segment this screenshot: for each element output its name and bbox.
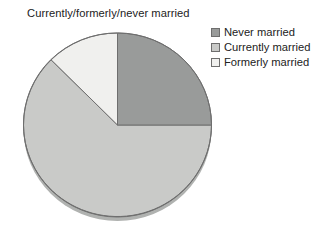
pie-chart-figure: Currently/formerly/never married Never m… bbox=[0, 0, 333, 236]
chart-title: Currently/formerly/never married bbox=[27, 6, 190, 20]
pie-slice-never-married[interactable] bbox=[118, 33, 212, 125]
legend-swatch-icon bbox=[211, 43, 220, 52]
legend-label: Formerly married bbox=[224, 56, 309, 69]
legend-swatch-icon bbox=[211, 28, 220, 37]
pie-graphic bbox=[22, 29, 213, 222]
chart-legend: Never married Currently married Formerly… bbox=[211, 25, 310, 69]
pie-svg bbox=[22, 29, 213, 222]
legend-item-currently-married[interactable]: Currently married bbox=[211, 40, 310, 54]
legend-label: Currently married bbox=[224, 41, 310, 54]
legend-item-formerly-married[interactable]: Formerly married bbox=[211, 55, 310, 69]
legend-swatch-icon bbox=[211, 58, 220, 67]
legend-item-never-married[interactable]: Never married bbox=[211, 25, 310, 39]
legend-label: Never married bbox=[224, 26, 295, 39]
